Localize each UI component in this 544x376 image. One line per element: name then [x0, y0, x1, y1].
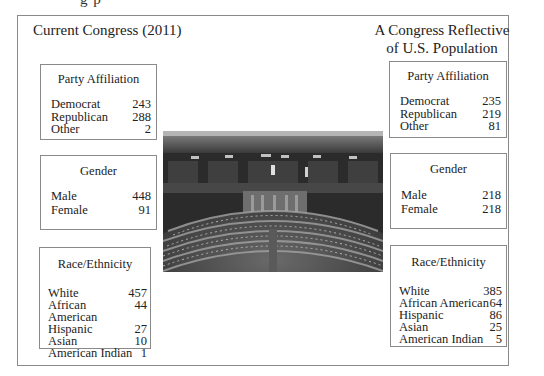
reflective-heading-line1: A Congress Reflective	[370, 21, 514, 39]
table-row: Democrat235	[400, 95, 501, 108]
box-title: Party Affiliation	[390, 69, 506, 84]
row-label: Male	[401, 188, 427, 202]
reflective-race-box: Race/Ethnicity White385 African American…	[390, 245, 507, 347]
table-row: African American44	[48, 299, 147, 323]
row-label: Female	[401, 202, 438, 216]
row-value: 243	[132, 98, 151, 111]
reflective-heading-line2: of U.S. Population	[370, 39, 514, 57]
current-congress-heading: Current Congress (2011)	[33, 21, 182, 39]
table-row: Other81	[400, 120, 501, 133]
row-label: Other	[51, 123, 79, 136]
table-row: Democrat243	[51, 98, 151, 111]
box-title: Gender	[391, 162, 506, 177]
row-value: 448	[132, 189, 151, 203]
current-race-box: Race/Ethnicity White457 African American…	[39, 247, 151, 349]
house-chamber-photo	[163, 131, 383, 272]
table-row: Male448	[51, 189, 151, 203]
chamber-illustration	[163, 131, 383, 272]
table-row: Other2	[51, 123, 151, 136]
table-row: American Indian1	[48, 347, 147, 359]
row-value: 81	[489, 120, 502, 133]
row-label: Female	[51, 203, 88, 217]
row-label: Democrat	[400, 95, 449, 108]
row-value: 5	[496, 333, 502, 345]
table-row: Male218	[401, 188, 501, 202]
box-title: Gender	[41, 164, 156, 179]
row-label: Democrat	[51, 98, 100, 111]
box-title: Party Affiliation	[41, 72, 156, 87]
reflective-congress-heading: A Congress Reflective of U.S. Population	[370, 21, 514, 57]
row-value: 2	[145, 123, 151, 136]
row-value: 44	[135, 299, 148, 323]
row-label: Other	[400, 120, 428, 133]
row-label: American Indian	[399, 333, 483, 345]
row-label: African American	[48, 299, 135, 323]
cropped-caption-fragment: g p	[80, 0, 102, 8]
box-title: Race/Ethnicity	[391, 255, 506, 270]
table-row: Female91	[51, 203, 151, 217]
row-label: American Indian	[48, 347, 132, 359]
row-value: 218	[482, 188, 501, 202]
current-party-box: Party Affiliation Democrat243 Republican…	[40, 64, 157, 140]
box-title: Race/Ethnicity	[40, 257, 150, 272]
row-value: 235	[482, 95, 501, 108]
row-value: 91	[139, 203, 152, 217]
table-row: American Indian5	[399, 333, 502, 345]
row-label: Male	[51, 189, 77, 203]
reflective-gender-box: Gender Male218 Female218	[390, 153, 507, 229]
reflective-party-box: Party Affiliation Democrat235 Republican…	[389, 61, 507, 138]
row-value: 218	[482, 202, 501, 216]
row-value: 1	[141, 347, 147, 359]
current-gender-box: Gender Male448 Female91	[40, 155, 157, 230]
table-row: Female218	[401, 202, 501, 216]
